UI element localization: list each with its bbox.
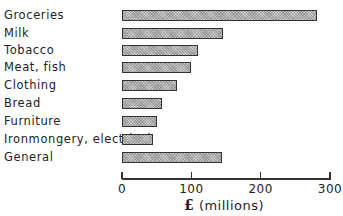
x-tick-label: 200	[248, 182, 272, 196]
category-label: Tobacco	[4, 44, 54, 56]
bar	[122, 116, 157, 127]
bar	[122, 152, 222, 163]
bar	[122, 28, 223, 39]
bar	[122, 134, 153, 145]
x-axis-line	[122, 178, 331, 180]
bar	[122, 10, 317, 21]
x-axis-unit: (millions)	[194, 198, 264, 213]
category-label: Meat, fish	[4, 61, 66, 73]
category-label: General	[4, 151, 54, 163]
x-axis-label: £ (millions)	[184, 197, 264, 213]
category-label: Groceries	[4, 9, 64, 21]
bar	[122, 45, 198, 56]
bar	[122, 62, 191, 73]
pound-sign: £	[184, 197, 194, 213]
x-tick-label: 300	[318, 182, 342, 196]
category-label: Furniture	[4, 115, 61, 127]
x-tick-label: 0	[118, 182, 126, 196]
bar	[122, 80, 177, 91]
bar	[122, 98, 162, 109]
category-label: Milk	[4, 27, 29, 39]
x-tick-label: 100	[179, 182, 203, 196]
category-label: Bread	[4, 97, 41, 109]
category-label: Clothing	[4, 79, 57, 91]
